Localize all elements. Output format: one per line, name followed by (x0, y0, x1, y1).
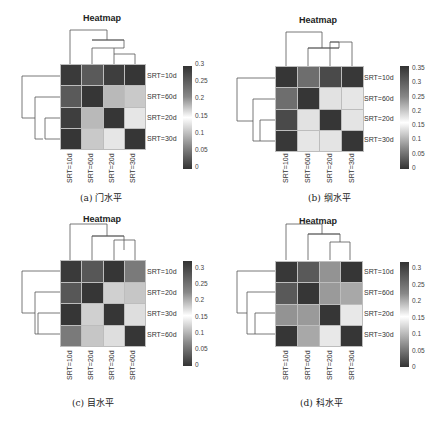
heatmap-cell (82, 283, 102, 304)
col-label: SRT=10d (282, 153, 289, 183)
col-label: SRT=10d (66, 153, 73, 183)
heatmap-cell (276, 88, 297, 108)
colorbar (183, 261, 192, 366)
colorbar-tick: 0.2 (195, 296, 204, 303)
row-label: SRT=60d (364, 289, 394, 296)
heatmap-cell (125, 86, 145, 106)
heatmap-cell (276, 262, 297, 282)
heatmap-cell (104, 108, 124, 128)
row-label: SRT=30d (147, 310, 177, 317)
heatmap-cell (104, 326, 124, 347)
heatmap-cell (61, 108, 81, 128)
heatmap-cell (104, 86, 124, 106)
colorbar-tick: 0.25 (195, 280, 208, 287)
column-dendrogram (275, 30, 375, 70)
colorbar-tick: 0.3 (195, 264, 204, 271)
panel-d: Heatmap SRT=10d SRT=60d SRT=20d SRT=30d … (220, 214, 440, 428)
caption: (b) 纲水平 (308, 191, 351, 204)
col-label: SRT=30d (129, 153, 136, 183)
colorbar-tick: 0.25 (412, 93, 425, 100)
heatmap-cell (341, 305, 362, 325)
heatmap-cell (125, 326, 145, 347)
col-label: SRT=20d (326, 350, 333, 380)
col-label: SRT=20d (108, 153, 115, 183)
heatmap-cell (104, 129, 124, 149)
heatmap-cell (298, 326, 319, 346)
colorbar-tick: 0.15 (195, 313, 208, 320)
column-dendrogram (275, 224, 375, 264)
heatmap-cell (104, 261, 124, 282)
heatmap-cell (320, 110, 341, 130)
colorbar (400, 262, 409, 367)
heatmap-cell (298, 262, 319, 282)
colorbar-tick: 0.3 (412, 264, 421, 271)
heatmap-grid (275, 66, 364, 152)
heatmap-cell (61, 65, 81, 85)
chart-title: Heatmap (83, 214, 121, 224)
colorbar-tick: 0.1 (195, 329, 204, 336)
row-label: SRT=20d (364, 115, 394, 122)
caption: (a) 门水平 (80, 191, 122, 204)
panel-a: Heatmap SRT=10d SRT=60d SRT=20d SRT=30d … (0, 0, 220, 214)
heatmap-cell (298, 88, 319, 108)
row-label: SRT=30d (364, 331, 394, 338)
col-label: SRT=20d (326, 153, 333, 183)
heatmap-cell (276, 326, 297, 346)
col-label: SRT=60d (304, 153, 311, 183)
row-dendrogram (20, 63, 60, 153)
heatmap-cell (298, 283, 319, 303)
colorbar-tick: 0.25 (412, 281, 425, 288)
colorbar-tick: 0.05 (412, 150, 425, 157)
heatmap-cell (341, 326, 362, 346)
col-label: SRT=60d (304, 350, 311, 380)
heatmap-cell (125, 261, 145, 282)
chart-title: Heatmap (299, 15, 337, 25)
row-label: SRT=20d (147, 289, 177, 296)
col-label: SRT=30d (108, 350, 115, 380)
heatmap-cell (341, 262, 362, 282)
colorbar-tick: 0 (195, 361, 199, 368)
heatmap-cell (320, 262, 341, 282)
heatmap-cell (276, 110, 297, 130)
heatmap-cell (276, 67, 297, 87)
col-label: SRT=30d (348, 350, 355, 380)
row-label: SRT=60d (147, 331, 177, 338)
colorbar-tick: 0.05 (195, 345, 208, 352)
panel-c: Heatmap SRT=10d SRT=20d SRT=30d SRT=60d … (0, 214, 220, 428)
colorbar-tick: 0.2 (412, 297, 421, 304)
heatmap-cell (82, 304, 102, 325)
row-label: SRT=10d (364, 74, 394, 81)
heatmap-cell (125, 108, 145, 128)
col-label: SRT=60d (129, 350, 136, 380)
heatmap-grid (60, 260, 146, 347)
heatmap-cell (342, 110, 363, 130)
colorbar (400, 66, 409, 169)
heatmap-cell (125, 129, 145, 149)
heatmap-cell (342, 131, 363, 151)
heatmap-cell (104, 283, 124, 304)
colorbar-tick: 0.1 (412, 330, 421, 337)
heatmap-cell (61, 304, 81, 325)
colorbar-tick: 0.3 (195, 60, 204, 67)
heatmap-cell (342, 88, 363, 108)
heatmap-cell (61, 283, 81, 304)
colorbar-tick: 0 (195, 163, 199, 170)
row-label: SRT=20d (364, 310, 394, 317)
heatmap-cell (320, 305, 341, 325)
col-label: SRT=10d (282, 350, 289, 380)
heatmap-cell (320, 283, 341, 303)
panel-b: Heatmap SRT=10d SRT=60d SRT=20d SRT=30d … (220, 0, 440, 214)
heatmap-cell (82, 129, 102, 149)
heatmap-cell (276, 283, 297, 303)
colorbar-tick: 0 (412, 164, 416, 171)
heatmap-cell (341, 283, 362, 303)
colorbar-tick: 0.25 (195, 77, 208, 84)
heatmap-cell (298, 305, 319, 325)
row-label: SRT=20d (147, 114, 177, 121)
row-label: SRT=10d (364, 268, 394, 275)
heatmap-cell (276, 131, 297, 151)
colorbar-tick: 0.2 (195, 94, 204, 101)
heatmap-cell (342, 67, 363, 87)
row-dendrogram (20, 260, 60, 350)
heatmap-cell (82, 65, 102, 85)
